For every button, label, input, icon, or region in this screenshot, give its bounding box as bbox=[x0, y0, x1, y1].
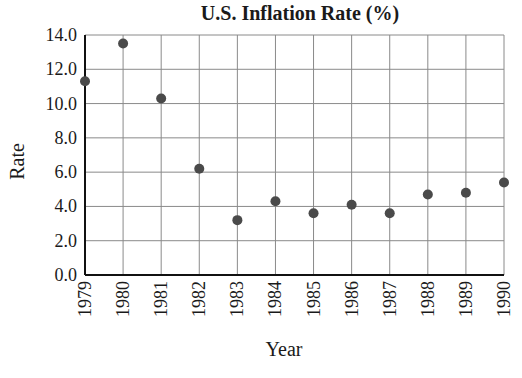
x-tick-label: 1990 bbox=[494, 281, 514, 317]
data-point bbox=[270, 196, 280, 206]
x-tick-label: 1988 bbox=[418, 281, 438, 317]
data-point bbox=[194, 164, 204, 174]
x-tick-label: 1989 bbox=[456, 281, 476, 317]
data-point bbox=[385, 208, 395, 218]
x-tick-label: 1979 bbox=[75, 281, 95, 317]
x-tick-label: 1983 bbox=[227, 281, 247, 317]
inflation-scatter-chart: U.S. Inflation Rate (%) Rate Year 0.02.0… bbox=[0, 0, 522, 378]
y-tick-label: 0.0 bbox=[55, 265, 78, 285]
data-point bbox=[347, 200, 357, 210]
x-tick-label: 1987 bbox=[380, 281, 400, 317]
data-point bbox=[309, 208, 319, 218]
data-point bbox=[80, 76, 90, 86]
x-tick-label: 1981 bbox=[151, 281, 171, 317]
x-tick-label: 1984 bbox=[265, 281, 285, 317]
y-tick-label: 12.0 bbox=[46, 59, 78, 79]
x-tick-label: 1982 bbox=[189, 281, 209, 317]
data-point bbox=[423, 189, 433, 199]
y-tick-label: 4.0 bbox=[55, 196, 78, 216]
y-tick-label: 2.0 bbox=[55, 231, 78, 251]
data-point bbox=[499, 177, 509, 187]
data-point bbox=[118, 39, 128, 49]
x-tick-label: 1986 bbox=[342, 281, 362, 317]
y-tick-label: 10.0 bbox=[46, 94, 78, 114]
data-point bbox=[461, 188, 471, 198]
y-tick-label: 6.0 bbox=[55, 162, 78, 182]
data-point bbox=[232, 215, 242, 225]
x-tick-label: 1985 bbox=[304, 281, 324, 317]
data-point bbox=[156, 93, 166, 103]
y-tick-label: 8.0 bbox=[55, 128, 78, 148]
plot-area: 0.02.04.06.08.010.012.014.01979198019811… bbox=[0, 0, 522, 378]
x-tick-label: 1980 bbox=[113, 281, 133, 317]
y-tick-label: 14.0 bbox=[46, 25, 78, 45]
